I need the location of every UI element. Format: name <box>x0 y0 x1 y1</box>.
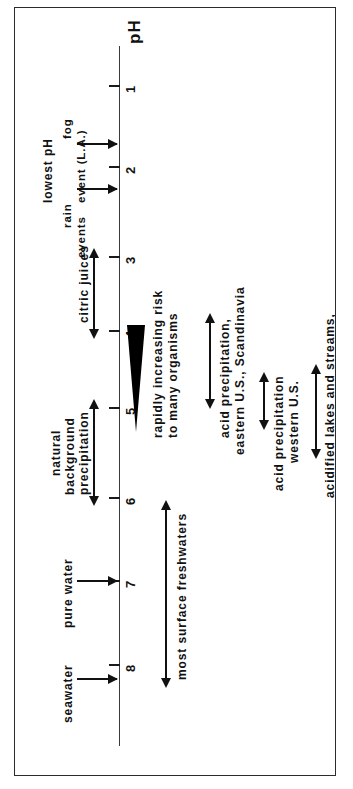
fog-event-label-line1: fog <box>61 118 75 139</box>
citric-juices-range-arrow <box>93 257 95 330</box>
risk-label-line1: rapidly increasing risk <box>151 290 165 438</box>
axis-tick-label-7: 7 <box>123 580 138 588</box>
axis-tick-2 <box>109 166 120 168</box>
axis-tick-1 <box>109 85 120 87</box>
acid-precip-west-range-arrow <box>263 381 265 421</box>
seawater-label: seawater <box>61 664 75 723</box>
axis-tick-6 <box>109 497 120 499</box>
figure-frame: pH 1 2 3 4 5 6 7 8 lowest pH event (L.A.… <box>14 7 336 776</box>
axis-title: pH <box>125 19 145 44</box>
axis-tick-label-2: 2 <box>123 166 138 174</box>
axis-tick-label-6: 6 <box>123 497 138 505</box>
most-surface-freshwaters-range-arrow <box>165 509 167 679</box>
rain-events-arrow <box>77 188 117 190</box>
acidified-lakes-range-arrow <box>315 373 317 450</box>
natural-background-range-arrow <box>93 408 95 497</box>
axis-tick-label-1: 1 <box>123 85 138 93</box>
increasing-risk-wedge <box>127 325 145 432</box>
ph-axis-line <box>119 46 120 746</box>
fog-event-arrow <box>77 143 117 145</box>
fog-event-label-line2: event (L.A.) <box>75 130 89 203</box>
acidified-lakes-label-line1: acidified lakes and streams, <box>323 313 336 498</box>
natural-background-label-line1: natural <box>49 430 63 476</box>
axis-tick-label-8: 8 <box>123 664 138 672</box>
lowest-ph-group-label: lowest pH <box>41 138 55 203</box>
most-surface-freshwaters-label: most surface freshwaters <box>175 513 189 680</box>
pure-water-label: pure water <box>61 558 75 628</box>
pure-water-arrow <box>77 580 117 582</box>
axis-tick-5 <box>109 407 120 409</box>
axis-tick-8 <box>109 664 120 666</box>
rain-events-label-line1: rain <box>61 203 75 228</box>
acid-precip-east-label-line2: eastern U.S., Scandinavia <box>233 286 247 455</box>
acid-precip-west-label-line1: acid precipitation <box>272 375 286 491</box>
seawater-arrow <box>77 678 117 680</box>
risk-label-line2: to many organisms <box>166 313 180 438</box>
acid-precip-east-range-arrow <box>209 322 211 400</box>
natural-background-label-line3: precipitation <box>77 411 91 495</box>
axis-tick-4 <box>109 330 120 332</box>
acid-precip-east-label-line1: acid precipitation, <box>218 318 232 438</box>
axis-tick-3 <box>109 256 120 258</box>
acid-precip-west-label-line2: western U.S. <box>287 380 301 463</box>
axis-tick-label-3: 3 <box>123 256 138 264</box>
natural-background-label-line2: background <box>63 417 77 495</box>
